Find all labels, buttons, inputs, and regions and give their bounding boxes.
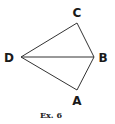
figure-caption: Ex. 6 [40, 110, 62, 120]
edge-ad [21, 57, 77, 90]
vertex-label-d: D [4, 51, 14, 65]
vertex-label-b: B [98, 51, 107, 65]
vertex-label-c: C [73, 6, 82, 20]
edge-cb [77, 23, 94, 57]
vertex-label-a: A [72, 94, 82, 108]
edge-dc [21, 23, 77, 57]
edge-ba [77, 57, 94, 90]
geometry-figure: C D B A Ex. 6 [0, 0, 115, 124]
